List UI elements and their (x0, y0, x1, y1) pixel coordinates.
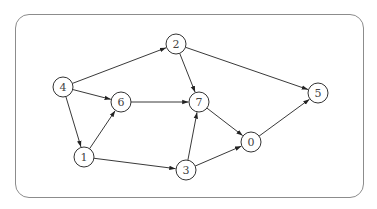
node-7: 7 (189, 92, 209, 112)
edge-0-to-5 (259, 99, 309, 136)
node-label: 2 (173, 38, 180, 51)
node-3: 3 (176, 160, 196, 180)
directed-graph: 01234567 (0, 0, 377, 209)
node-label: 6 (118, 96, 125, 109)
node-label: 3 (183, 164, 190, 177)
node-label: 5 (315, 87, 322, 100)
edge-4-to-6 (73, 90, 111, 100)
edge-1-to-6 (90, 111, 116, 149)
node-6: 6 (111, 92, 131, 112)
node-label: 1 (81, 151, 88, 164)
edges-layer (66, 47, 310, 168)
node-1: 1 (74, 147, 94, 167)
node-0: 0 (241, 132, 261, 152)
node-label: 7 (196, 96, 203, 109)
edge-3-to-7 (188, 112, 197, 160)
edge-2-to-5 (185, 47, 308, 89)
edge-4-to-2 (72, 48, 166, 84)
nodes-layer: 01234567 (53, 34, 328, 180)
node-label: 4 (60, 81, 67, 94)
edge-7-to-0 (207, 108, 243, 136)
edge-1-to-3 (94, 158, 176, 168)
edge-4-to-1 (66, 97, 81, 147)
edge-3-to-0 (195, 146, 241, 166)
node-2: 2 (166, 34, 186, 54)
node-label: 0 (248, 136, 255, 149)
node-5: 5 (308, 83, 328, 103)
node-4: 4 (53, 77, 73, 97)
edge-2-to-7 (180, 53, 195, 92)
